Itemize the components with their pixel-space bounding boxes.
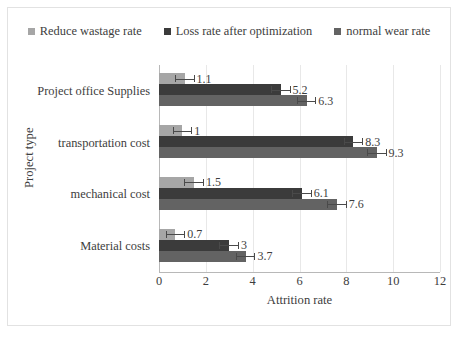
error-bar-cap-left [236, 253, 237, 260]
error-bar-line [297, 101, 317, 102]
bar-row: 3.7 [159, 251, 440, 262]
x-axis-line [159, 272, 440, 273]
bar-row: 3 [159, 240, 440, 251]
x-axis-tick-label: 10 [387, 274, 399, 289]
error-bar-line [236, 256, 256, 257]
error-bar-line [184, 182, 204, 183]
legend-item-label: Loss rate after optimization [176, 25, 313, 37]
error-bar-cap-right [194, 75, 195, 82]
bar[interactable] [159, 147, 377, 158]
error-bar-line [175, 79, 195, 80]
bar-row: 7.6 [159, 199, 440, 210]
error-bar-cap-right [203, 179, 204, 186]
error-bar [184, 179, 204, 186]
error-bar [292, 190, 312, 197]
bar-group: 1.56.17.6 [159, 177, 440, 210]
y-axis-tick-label: transportation cost [58, 135, 150, 150]
chart-frame: Reduce wastage rateLoss rate after optim… [7, 7, 451, 326]
error-bar-cap-right [315, 97, 316, 104]
bar-value-label: 0.7 [187, 228, 202, 240]
error-bar-cap-right [386, 149, 387, 156]
error-bar [344, 138, 364, 145]
bar-row: 5.2 [159, 84, 440, 95]
bar-group: 18.39.3 [159, 125, 440, 158]
y-axis-tick-label: Material costs [80, 239, 150, 254]
y-axis-tick-label: Project office Supplies [37, 83, 150, 98]
error-bar-cap-right [290, 86, 291, 93]
bar[interactable] [159, 199, 337, 210]
error-bar-cap-left [173, 127, 174, 134]
square-marker-icon [28, 28, 35, 35]
bar-value-label: 3 [241, 239, 247, 251]
bar[interactable] [159, 95, 307, 106]
bar-value-label: 3.7 [257, 250, 272, 262]
bar-value-label: 6.3 [318, 95, 333, 107]
error-bar-cap-right [346, 201, 347, 208]
x-axis-tick-label: 0 [156, 274, 162, 289]
bar-row: 1 [159, 125, 440, 136]
error-bar-line [173, 131, 193, 132]
legend-item-label: Reduce wastage rate [40, 25, 142, 37]
bar-value-label: 5.2 [293, 84, 308, 96]
error-bar [219, 242, 239, 249]
error-bar [271, 86, 291, 93]
error-bar [175, 75, 195, 82]
bar-row: 1.5 [159, 177, 440, 188]
bar[interactable] [159, 251, 246, 262]
error-bar-cap-right [238, 242, 239, 249]
y-axis-category-labels: Project office Suppliestransportation co… [8, 65, 155, 272]
y-axis-tick-label: mechanical cost [71, 187, 150, 202]
error-bar-cap-left [292, 190, 293, 197]
error-bar-line [271, 90, 291, 91]
bar-value-label: 7.6 [349, 198, 364, 210]
error-bar-line [292, 193, 312, 194]
legend-item-label: normal wear rate [346, 25, 430, 37]
x-axis-tick-label: 4 [250, 274, 256, 289]
error-bar-cap-left [184, 179, 185, 186]
error-bar-cap-right [311, 190, 312, 197]
bar[interactable] [159, 188, 302, 199]
error-bar-cap-left [271, 86, 272, 93]
error-bar-line [367, 153, 387, 154]
error-bar-cap-left [327, 201, 328, 208]
error-bar-cap-left [297, 97, 298, 104]
x-axis-title: Attrition rate [159, 293, 440, 308]
error-bar-cap-right [362, 138, 363, 145]
legend-item[interactable]: Loss rate after optimization [164, 25, 313, 37]
bar-group: 0.733.7 [159, 229, 440, 262]
legend-item[interactable]: Reduce wastage rate [28, 25, 142, 37]
bar-value-label: 1.1 [197, 73, 212, 85]
error-bar-cap-left [166, 231, 167, 238]
x-axis-tick-label: 6 [296, 274, 302, 289]
error-bar-cap-left [344, 138, 345, 145]
error-bar [236, 253, 256, 260]
bar[interactable] [159, 136, 353, 147]
bar-value-label: 8.3 [365, 136, 380, 148]
plot-area: 1.15.26.318.39.31.56.17.60.733.7 [159, 65, 440, 272]
error-bar-line [219, 245, 239, 246]
error-bar-line [344, 142, 364, 143]
bar-row: 6.1 [159, 188, 440, 199]
error-bar-cap-right [254, 253, 255, 260]
gridline [440, 65, 441, 272]
error-bar [297, 97, 317, 104]
bar-value-label: 1 [194, 125, 200, 137]
error-bar-cap-left [175, 75, 176, 82]
x-axis-tick-label: 8 [343, 274, 349, 289]
error-bar-cap-left [219, 242, 220, 249]
legend-item[interactable]: normal wear rate [334, 25, 430, 37]
error-bar-cap-right [184, 231, 185, 238]
bar-row: 9.3 [159, 147, 440, 158]
error-bar [327, 201, 347, 208]
bar-group: 1.15.26.3 [159, 73, 440, 106]
bar-value-label: 9.3 [389, 147, 404, 159]
error-bar-cap-left [367, 149, 368, 156]
error-bar-line [327, 204, 347, 205]
square-marker-icon [164, 28, 171, 35]
chart-legend: Reduce wastage rateLoss rate after optim… [8, 25, 450, 37]
error-bar [367, 149, 387, 156]
bar-row: 0.7 [159, 229, 440, 240]
error-bar-line [166, 234, 186, 235]
bar[interactable] [159, 84, 281, 95]
x-axis-tick-label: 2 [203, 274, 209, 289]
